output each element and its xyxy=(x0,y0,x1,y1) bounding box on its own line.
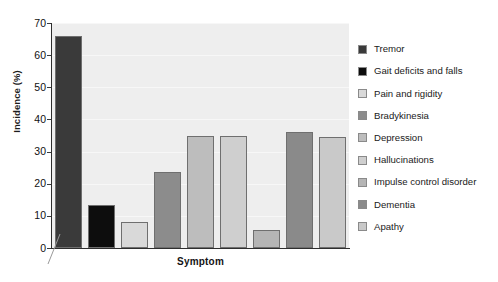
x-axis-title: Symptom xyxy=(52,256,349,267)
bar xyxy=(121,222,148,248)
gridline xyxy=(52,119,349,120)
legend-item[interactable]: Hallucinations xyxy=(358,149,498,171)
bar xyxy=(319,137,346,248)
bar xyxy=(220,136,247,248)
y-tick-label: 50 xyxy=(20,82,46,93)
legend-swatch-icon xyxy=(358,111,367,120)
bar xyxy=(88,205,115,248)
legend-item[interactable]: Dementia xyxy=(358,193,498,215)
y-tick-label: 70 xyxy=(20,18,46,29)
y-tick-mark xyxy=(47,152,51,153)
legend-item[interactable]: Apathy xyxy=(358,216,498,238)
legend-item[interactable]: Pain and rigidity xyxy=(358,82,498,104)
x-axis-line xyxy=(52,248,350,249)
legend: TremorGait deficits and fallsPain and ri… xyxy=(358,38,498,238)
legend-swatch-icon xyxy=(358,133,367,142)
legend-item[interactable]: Depression xyxy=(358,127,498,149)
legend-swatch-icon xyxy=(358,178,367,187)
legend-item-label: Bradykinesia xyxy=(374,111,429,121)
legend-item-label: Hallucinations xyxy=(374,155,434,165)
y-tick-label: 0 xyxy=(20,243,46,254)
legend-swatch-icon xyxy=(358,89,367,98)
legend-item-label: Gait deficits and falls xyxy=(374,66,463,76)
y-tick-mark xyxy=(47,184,51,185)
legend-item-label: Tremor xyxy=(374,44,405,54)
bar xyxy=(286,132,313,248)
legend-swatch-icon xyxy=(358,156,367,165)
bar xyxy=(154,172,181,248)
legend-swatch-icon xyxy=(358,45,367,54)
legend-item-label: Dementia xyxy=(374,200,415,210)
y-tick-mark xyxy=(47,55,51,56)
y-tick-mark xyxy=(47,248,51,249)
legend-item-label: Pain and rigidity xyxy=(374,89,442,99)
y-axis-ticks: 010203040506070 xyxy=(16,0,46,282)
legend-swatch-icon xyxy=(358,200,367,209)
legend-item-label: Depression xyxy=(374,133,423,143)
legend-swatch-icon xyxy=(358,222,367,231)
y-tick-label: 60 xyxy=(20,50,46,61)
y-axis-line xyxy=(51,23,52,249)
bar xyxy=(187,136,214,249)
y-tick-label: 20 xyxy=(20,178,46,189)
gridline xyxy=(52,23,349,24)
legend-swatch-icon xyxy=(358,67,367,76)
legend-item-label: Impulse control disorder xyxy=(374,177,476,187)
y-tick-label: 40 xyxy=(20,114,46,125)
legend-item-label: Apathy xyxy=(374,222,404,232)
y-tick-mark xyxy=(47,23,51,24)
legend-item[interactable]: Bradykinesia xyxy=(358,105,498,127)
bar xyxy=(55,36,82,248)
gridline xyxy=(52,87,349,88)
plot-area xyxy=(52,23,349,248)
y-tick-mark xyxy=(47,87,51,88)
y-tick-label: 30 xyxy=(20,146,46,157)
gridline xyxy=(52,55,349,56)
bar xyxy=(253,230,280,248)
y-tick-mark xyxy=(47,119,51,120)
legend-item[interactable]: Tremor xyxy=(358,38,498,60)
bar-chart-figure: Incidence (%) 010203040506070 Symptom Tr… xyxy=(0,0,498,282)
legend-item[interactable]: Gait deficits and falls xyxy=(358,60,498,82)
y-tick-label: 10 xyxy=(20,210,46,221)
legend-item[interactable]: Impulse control disorder xyxy=(358,171,498,193)
y-tick-mark xyxy=(47,216,51,217)
plot-inner xyxy=(52,23,349,248)
